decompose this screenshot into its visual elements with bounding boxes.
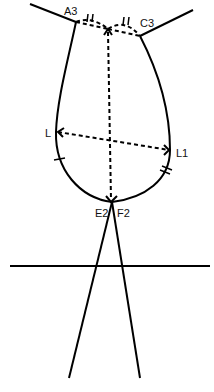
armhole-outline	[56, 22, 170, 202]
center-dashed-vertical	[108, 32, 111, 200]
label-l: L	[45, 127, 51, 139]
pattern-diagram: A3 C3 L L1 E2 F2	[0, 0, 214, 392]
leg-line-right	[112, 202, 140, 378]
notch-mark	[128, 17, 129, 25]
leg-line-left	[69, 202, 112, 378]
label-e2: E2	[95, 207, 108, 219]
notch-mark	[87, 14, 88, 22]
label-c3: C3	[140, 17, 154, 29]
notch-mark	[92, 14, 93, 22]
width-dashed-line	[58, 132, 169, 150]
notch-mark-left	[54, 158, 65, 160]
label-a3: A3	[64, 5, 77, 17]
label-l1: L1	[176, 147, 188, 159]
top-dashed-curve-right	[108, 25, 140, 36]
label-f2: F2	[117, 207, 130, 219]
notch-mark	[123, 17, 124, 25]
